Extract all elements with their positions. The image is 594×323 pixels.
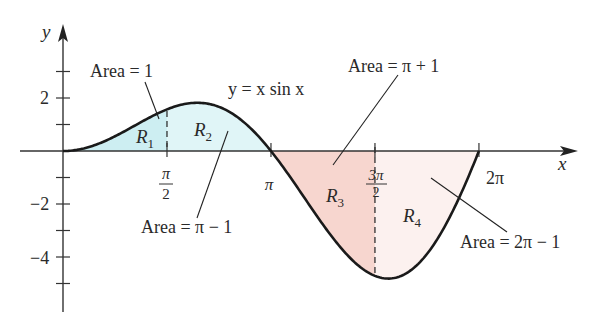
y-tick-label-neg2: −2 bbox=[30, 194, 49, 214]
region-r1-subscript: 1 bbox=[148, 136, 155, 151]
x-tick-label-3pi-over-2-num: 3π bbox=[367, 167, 384, 183]
area-label-r4: Area = 2π − 1 bbox=[460, 232, 560, 252]
x-tick-label-3pi-over-2-den: 2 bbox=[373, 185, 380, 200]
x-tick-label-2pi: 2π bbox=[486, 168, 504, 188]
x-tick-label-pi: π bbox=[265, 175, 274, 194]
region-r4-subscript: 4 bbox=[415, 215, 422, 230]
region-r2-subscript: 2 bbox=[206, 129, 213, 144]
x-tick-label-pi-over-2-den: 2 bbox=[162, 186, 170, 202]
y-axis-label: y bbox=[40, 21, 51, 42]
region-r3-name: R bbox=[325, 185, 338, 206]
region-r2-fill bbox=[167, 103, 271, 151]
x-tick-label-2pi-text: 2π bbox=[486, 168, 504, 188]
x-tick-label-pi-over-2-num: π bbox=[162, 165, 171, 182]
y-tick-label-neg4: −4 bbox=[30, 248, 49, 268]
leader-area-r1 bbox=[145, 82, 159, 119]
area-label-r2: Area = π − 1 bbox=[141, 217, 232, 237]
region-r4-name: R bbox=[402, 205, 415, 226]
x-sin-x-area-diagram: y x 2 −2 −4 π 2 π 3π 2 2π y = x sin x Ar… bbox=[0, 0, 594, 323]
area-label-r1: Area = 1 bbox=[90, 61, 153, 81]
area-label-r3: Area = π + 1 bbox=[348, 56, 439, 76]
region-r1-name: R bbox=[135, 126, 148, 147]
x-axis-label: x bbox=[557, 153, 567, 174]
function-label: y = x sin x bbox=[228, 79, 304, 99]
region-r3-subscript: 3 bbox=[338, 195, 345, 210]
region-r4-fill bbox=[375, 151, 479, 279]
y-tick-label-2: 2 bbox=[40, 88, 49, 108]
region-r2-name: R bbox=[193, 119, 206, 140]
